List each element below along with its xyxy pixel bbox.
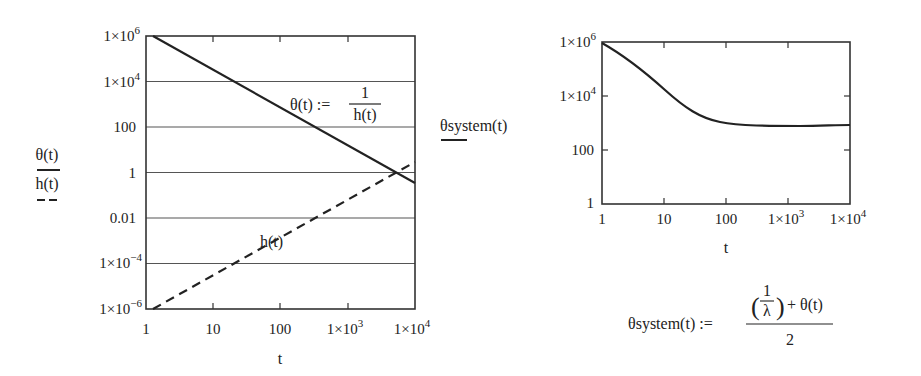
theta-definition: θ(t) := 1 h(t) bbox=[290, 84, 381, 124]
svg-text:1×103: 1×103 bbox=[768, 207, 805, 227]
figure: 1×106 1×104 100 1 0.01 1×10−4 1×10−6 1 1… bbox=[0, 0, 921, 376]
h-line bbox=[153, 162, 415, 309]
svg-text:1×104: 1×104 bbox=[394, 317, 431, 337]
svg-text:1×104: 1×104 bbox=[560, 84, 597, 104]
svg-text:1×104: 1×104 bbox=[104, 70, 141, 90]
svg-text:(: ( bbox=[751, 292, 760, 321]
svg-text:100: 100 bbox=[572, 142, 595, 158]
x-axis-label: t bbox=[724, 239, 729, 256]
x-tick-labels: 1 10 100 1×103 1×104 bbox=[142, 317, 430, 337]
svg-text:100: 100 bbox=[269, 321, 292, 337]
y-tick-labels: 1×106 1×104 100 1 0.01 1×10−4 1×10−6 bbox=[99, 24, 142, 317]
svg-text:100: 100 bbox=[114, 119, 137, 135]
svg-text:1: 1 bbox=[129, 165, 137, 181]
svg-text:1: 1 bbox=[763, 282, 771, 299]
x-tick-labels: 1 10 100 1×103 1×104 bbox=[598, 207, 866, 227]
svg-text:+ θ(t): + θ(t) bbox=[787, 296, 823, 314]
y-axis-legend: θsystem(t) bbox=[440, 117, 507, 140]
x-axis-label: t bbox=[278, 350, 283, 367]
svg-text:1×10−4: 1×10−4 bbox=[99, 251, 142, 271]
svg-text:1×10−6: 1×10−6 bbox=[99, 297, 142, 317]
svg-text:θ(t) :=: θ(t) := bbox=[290, 96, 330, 114]
svg-text:1×106: 1×106 bbox=[560, 30, 597, 50]
svg-text:10: 10 bbox=[657, 211, 672, 227]
y-tick-labels: 1×106 1×104 100 1 bbox=[560, 30, 597, 211]
svg-text:1×106: 1×106 bbox=[104, 24, 141, 44]
svg-text:h(t): h(t) bbox=[353, 106, 376, 124]
svg-text:θsystem(t) :=: θsystem(t) := bbox=[628, 315, 713, 333]
theta-system-equation: θsystem(t) := ( 1 λ ) + θ(t) 2 bbox=[628, 282, 833, 348]
svg-text:100: 100 bbox=[715, 211, 738, 227]
right-chart: 1×106 1×104 100 1 1 10 100 1×103 1×104 t… bbox=[440, 30, 867, 348]
svg-text:1×104: 1×104 bbox=[830, 207, 867, 227]
svg-text:10: 10 bbox=[206, 321, 221, 337]
svg-text:1: 1 bbox=[598, 211, 606, 227]
h-annotation: h(t) bbox=[260, 233, 283, 251]
svg-text:1: 1 bbox=[142, 321, 150, 337]
svg-text:): ) bbox=[776, 292, 785, 321]
svg-text:1×103: 1×103 bbox=[327, 317, 364, 337]
svg-text:1: 1 bbox=[361, 84, 369, 101]
y-label-h: h(t) bbox=[35, 175, 58, 193]
left-chart: 1×106 1×104 100 1 0.01 1×10−4 1×10−6 1 1… bbox=[35, 24, 430, 367]
y-label-theta-system: θsystem(t) bbox=[440, 117, 507, 135]
y-axis-legend: θ(t) h(t) bbox=[35, 146, 60, 200]
svg-text:0.01: 0.01 bbox=[110, 210, 136, 226]
y-label-theta: θ(t) bbox=[36, 146, 59, 164]
svg-text:1: 1 bbox=[587, 195, 595, 211]
svg-text:λ: λ bbox=[763, 302, 771, 319]
svg-text:2: 2 bbox=[786, 331, 794, 348]
theta-system-curve bbox=[602, 43, 850, 126]
